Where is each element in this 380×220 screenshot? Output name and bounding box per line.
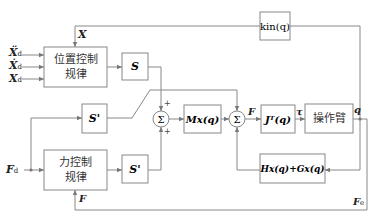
q-label: q xyxy=(354,104,361,115)
manipulator-block: 操作臂 xyxy=(305,104,353,133)
force-control-label-2: 规律 xyxy=(65,170,87,185)
summer-1: Σ xyxy=(153,111,169,127)
force-control-label-1: 力控制 xyxy=(59,155,92,170)
tau-label: τ xyxy=(296,106,303,117)
fe-label: Fe xyxy=(353,196,364,207)
f-feedback-label: F xyxy=(79,193,86,204)
f-signal-label: F xyxy=(248,106,255,117)
hg-block: Hx(q)+Gx(q) xyxy=(260,154,325,183)
xdd-label: Ẍd xyxy=(9,46,22,59)
jt-block: Jᵀ(q) xyxy=(261,105,295,133)
position-control-label-1: 位置控制 xyxy=(54,52,98,67)
s-block: S xyxy=(122,53,148,80)
plus-sign-1: + xyxy=(164,99,171,108)
kin-block: kin(q) xyxy=(260,12,290,40)
s-prime-bottom-block: S' xyxy=(122,155,148,183)
position-control-label-2: 规律 xyxy=(65,67,87,82)
summer-2: Σ xyxy=(229,111,245,127)
xd-dot-label: Ẋd xyxy=(9,59,22,72)
position-control-block: 位置控制 规律 xyxy=(44,47,107,87)
s-prime-top-block: S' xyxy=(82,104,107,133)
mx-block: Mx(q) xyxy=(184,105,221,133)
force-control-block: 力控制 规律 xyxy=(44,150,107,190)
fd-label: Fd xyxy=(6,163,18,176)
plus-sign-2: + xyxy=(164,127,171,136)
xd-label: Xd xyxy=(9,72,22,85)
x-feedback-label: X xyxy=(78,28,87,41)
